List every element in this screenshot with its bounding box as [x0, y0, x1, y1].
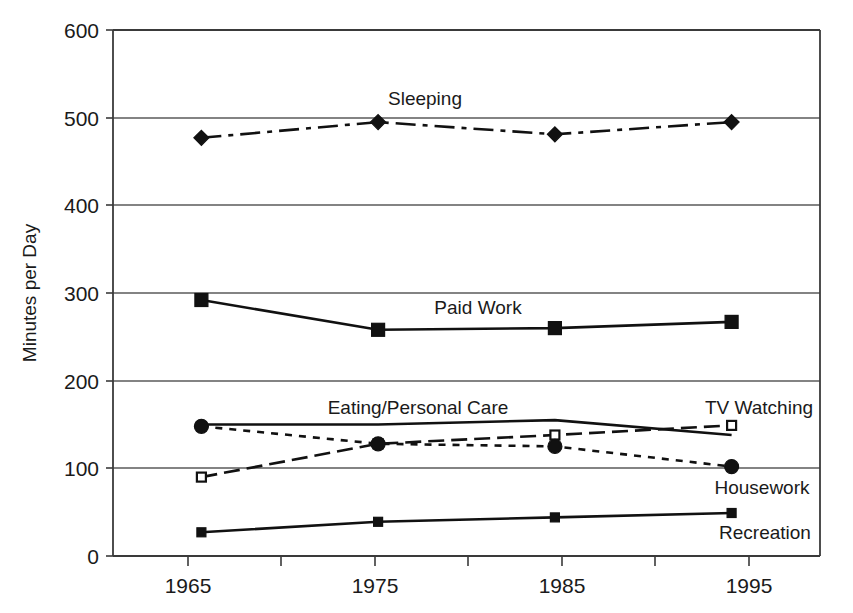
- x-tick-label-1985: 1985: [539, 574, 586, 597]
- y-axis-title: Minutes per Day: [19, 223, 40, 362]
- data-point-marker: [371, 437, 385, 451]
- chart-container: 600 500 400 300 200 100 0 Minutes per Da…: [0, 0, 853, 613]
- x-tick-label-1995: 1995: [726, 574, 773, 597]
- data-point-marker: [374, 517, 383, 526]
- series-label-recreation: Recreation: [719, 522, 811, 543]
- data-point-marker: [548, 439, 562, 453]
- data-point-marker: [727, 509, 736, 518]
- y-tick-label-300: 300: [64, 282, 99, 305]
- data-point-marker: [725, 460, 739, 474]
- x-tick-label-1975: 1975: [352, 574, 399, 597]
- series-label-sleeping: Sleeping: [388, 88, 462, 109]
- y-tick-label-600: 600: [64, 19, 99, 42]
- y-tick-label-100: 100: [64, 457, 99, 480]
- series-label-paid-work: Paid Work: [434, 297, 522, 318]
- data-point-marker: [727, 421, 736, 430]
- y-tick-label-0: 0: [87, 545, 99, 568]
- data-point-marker: [550, 513, 559, 522]
- data-point-marker: [195, 294, 208, 307]
- series-label-tv-watching: TV Watching: [705, 397, 813, 418]
- data-point-marker: [372, 323, 385, 336]
- data-point-marker: [725, 315, 738, 328]
- y-tick-label-500: 500: [64, 107, 99, 130]
- x-tick-label-1965: 1965: [165, 574, 212, 597]
- series-label-eating: Eating/Personal Care: [328, 397, 509, 418]
- data-point-marker: [548, 322, 561, 335]
- y-tick-label-200: 200: [64, 370, 99, 393]
- line-chart: 600 500 400 300 200 100 0 Minutes per Da…: [0, 0, 853, 613]
- data-point-marker: [197, 528, 206, 537]
- data-point-marker: [197, 473, 206, 482]
- data-point-marker: [550, 431, 559, 440]
- y-tick-label-400: 400: [64, 194, 99, 217]
- data-point-marker: [194, 419, 208, 433]
- series-label-housework: Housework: [714, 477, 810, 498]
